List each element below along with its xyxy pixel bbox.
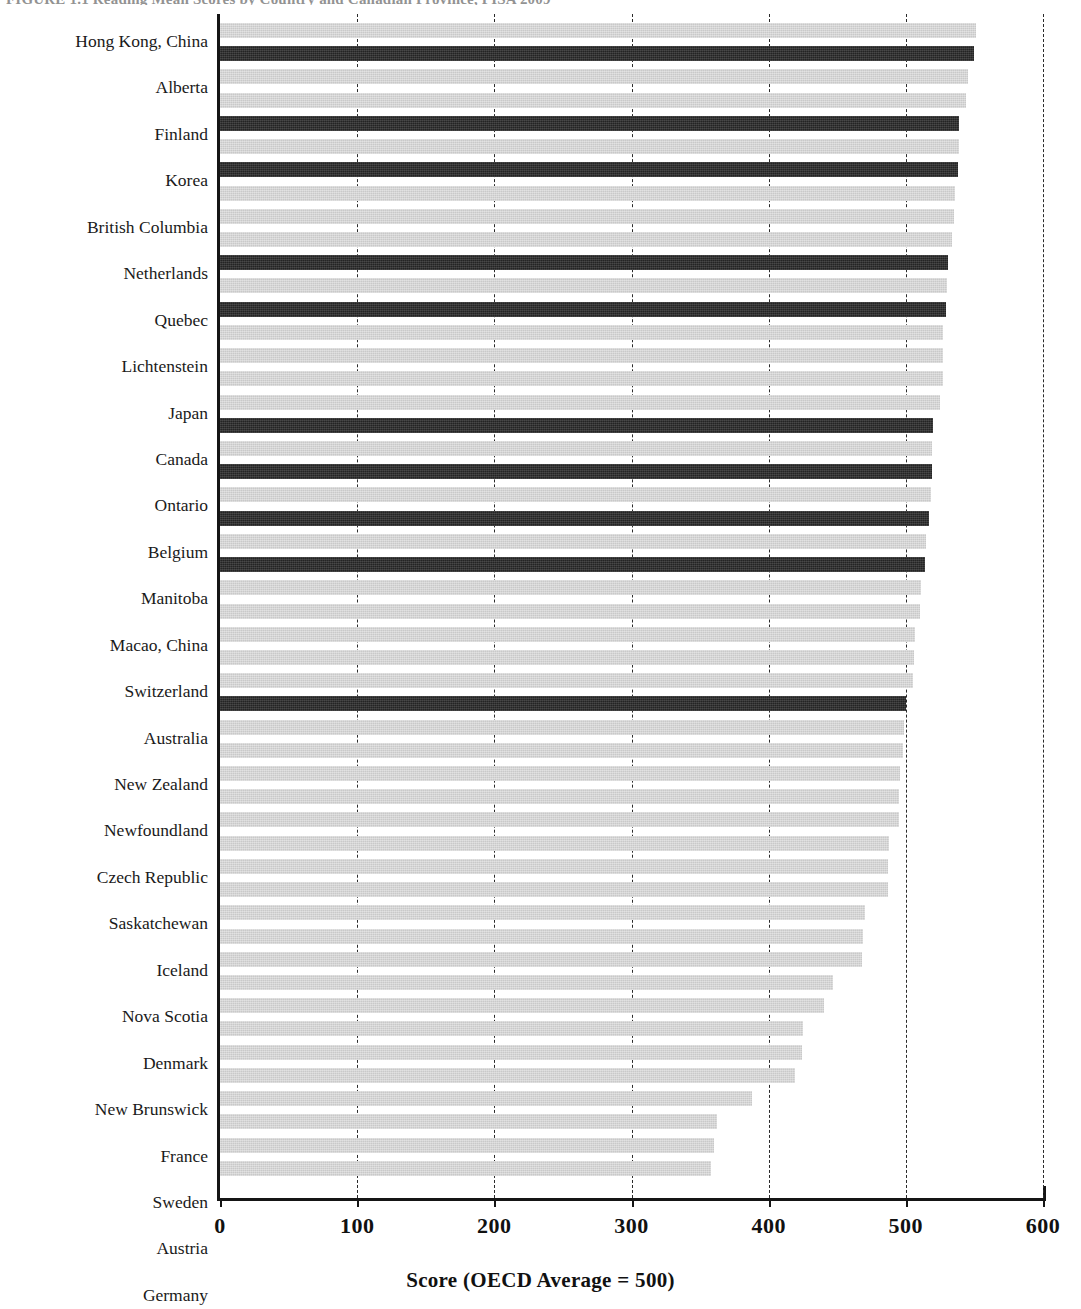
- bar: [220, 534, 926, 549]
- x-tick-label: 0: [214, 1213, 226, 1239]
- figure-title: FIGURE 1.1 Reading Mean Scores by Countr…: [0, 0, 1081, 5]
- bar-row: Korea: [220, 93, 1043, 108]
- bar-row: Italy: [220, 929, 1043, 944]
- bar-row: Belgium: [220, 278, 1043, 293]
- x-tick-label: 300: [614, 1213, 649, 1239]
- gridline-600: [1043, 14, 1044, 1198]
- category-label: Lichtenstein: [121, 358, 208, 376]
- bar: [220, 441, 932, 456]
- bar-row: Greece: [220, 975, 1043, 990]
- category-label: Alberta: [156, 79, 208, 97]
- bar: [220, 975, 833, 990]
- bar-row: Russian Federation: [220, 905, 1043, 920]
- bar: [220, 720, 904, 735]
- bar-row: Saskatchewan: [220, 464, 1043, 479]
- x-tick-600: [1043, 1198, 1045, 1207]
- bar-row: Thailand: [220, 1068, 1043, 1083]
- bar-row: Ontario: [220, 255, 1043, 270]
- bar-row: Manitoba: [220, 302, 1043, 317]
- bar: [220, 395, 940, 410]
- bar-row: Latvia: [220, 859, 1043, 874]
- bar: [220, 325, 943, 340]
- x-tick-label: 200: [477, 1213, 512, 1239]
- bar: [220, 998, 824, 1013]
- bar-row: Japan: [220, 209, 1043, 224]
- bar-row: Austria: [220, 627, 1043, 642]
- bar: [220, 23, 976, 38]
- category-label: Canada: [156, 451, 208, 469]
- bar: [220, 836, 889, 851]
- category-label: Manitoba: [141, 590, 208, 608]
- bar-row: Turkey: [220, 1021, 1043, 1036]
- category-label: Switzerland: [124, 683, 208, 701]
- bar: [220, 232, 952, 247]
- category-label: Australia: [144, 730, 208, 748]
- x-tick-label: 500: [889, 1213, 924, 1239]
- bar: [220, 673, 913, 688]
- bar-row: Germany: [220, 650, 1043, 665]
- category-label: Denmark: [143, 1055, 208, 1073]
- x-tick-500: [906, 1198, 908, 1207]
- bar-row: Hungary: [220, 789, 1043, 804]
- figure-container: FIGURE 1.1 Reading Mean Scores by Countr…: [0, 0, 1081, 1309]
- bar: [220, 580, 921, 595]
- category-label: Czech Republic: [97, 869, 208, 887]
- bar: [220, 1021, 803, 1036]
- x-axis-title: Score (OECD Average = 500): [0, 1268, 1081, 1293]
- x-tick-200: [494, 1198, 496, 1207]
- category-label: Macao, China: [110, 637, 208, 655]
- bar: [220, 511, 929, 526]
- bar: [220, 859, 888, 874]
- bar-row: Finland: [220, 69, 1043, 84]
- category-label: Korea: [165, 172, 208, 190]
- bar-row: Iceland: [220, 487, 1043, 502]
- bar: [220, 116, 959, 131]
- bar-row: New Zealand: [220, 395, 1043, 410]
- bar-row: Prince Edward Island: [220, 696, 1043, 711]
- bar-row: Norway: [220, 743, 1043, 758]
- bar-row: Australia: [220, 371, 1043, 386]
- category-label: Finland: [155, 126, 208, 144]
- bar-row: Poland: [220, 812, 1043, 827]
- category-label: New Zealand: [114, 776, 208, 794]
- bar: [220, 882, 888, 897]
- category-label: Quebec: [155, 312, 208, 330]
- bar: [220, 418, 933, 433]
- bar-row: Newfoundland: [220, 418, 1043, 433]
- bar: [220, 952, 862, 967]
- bar: [220, 1138, 714, 1153]
- bar-row: Switzerland: [220, 348, 1043, 363]
- bar-row: Lichtenstein: [220, 186, 1043, 201]
- x-tick-100: [357, 1198, 359, 1207]
- category-label: Iceland: [157, 962, 209, 980]
- bar: [220, 557, 925, 572]
- bar-row: New Brunswick: [220, 557, 1043, 572]
- x-tick-300: [632, 1198, 634, 1207]
- bar-row: Macao, China: [220, 325, 1043, 340]
- plot-area: Hong Kong, ChinaAlbertaFinlandKoreaBriti…: [220, 14, 1043, 1204]
- bar-row: Ireland: [220, 673, 1043, 688]
- bar-row: Mexico: [220, 1091, 1043, 1106]
- bar-row: Czech Republic: [220, 441, 1043, 456]
- bar: [220, 69, 968, 84]
- bar-row: Brazil: [220, 1161, 1043, 1176]
- bar: [220, 604, 920, 619]
- bar: [220, 278, 947, 293]
- bar: [220, 302, 946, 317]
- x-tick-400: [769, 1198, 771, 1207]
- bar-row: Spain: [220, 836, 1043, 851]
- bar: [220, 789, 899, 804]
- bar: [220, 1114, 717, 1129]
- bar: [220, 696, 906, 711]
- bar: [220, 464, 932, 479]
- x-axis-line: [217, 1198, 1043, 1201]
- x-tick-label: 600: [1026, 1213, 1061, 1239]
- x-tick-label: 100: [340, 1213, 375, 1239]
- bar: [220, 812, 899, 827]
- category-label: New Brunswick: [95, 1101, 208, 1119]
- bar: [220, 766, 900, 781]
- category-label: Japan: [168, 405, 208, 423]
- bar-row: Luxembourg: [220, 766, 1043, 781]
- category-label: Sweden: [153, 1194, 208, 1212]
- bar-row: United States: [220, 882, 1043, 897]
